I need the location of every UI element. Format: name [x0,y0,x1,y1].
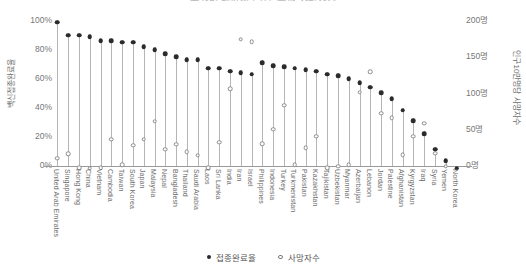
data-point-deaths[interactable] [217,140,222,145]
x-axis-label: Thailand [182,169,189,197]
data-point-vaccination[interactable] [260,60,265,65]
data-point-deaths[interactable] [260,141,265,146]
x-axis-label: Lebanon [366,169,373,197]
x-axis-label: Nepal [161,169,168,188]
stem-line [176,55,177,166]
y-axis-right-tick: 150명 [466,52,488,61]
x-axis-label: Japan [139,169,146,189]
data-point-vaccination[interactable] [55,20,60,25]
data-point-vaccination[interactable] [109,39,114,44]
data-point-vaccination[interactable] [357,81,362,86]
x-axis-label: Pakistan [301,169,308,197]
data-point-vaccination[interactable] [131,40,136,45]
legend-item-deaths[interactable]: 사망자수 [278,251,320,263]
data-point-vaccination[interactable] [98,39,103,44]
stem-line [122,40,123,166]
stem-line [424,131,425,166]
data-point-deaths[interactable] [379,111,384,116]
data-point-deaths[interactable] [390,115,395,120]
data-point-vaccination[interactable] [163,52,168,57]
stem-line [349,76,350,166]
data-point-vaccination[interactable] [411,118,416,123]
data-point-vaccination[interactable] [120,40,125,45]
x-axis-label: Tajikistan [323,169,330,199]
data-point-deaths[interactable] [174,142,179,147]
data-point-vaccination[interactable] [433,147,438,152]
data-point-vaccination[interactable] [239,70,244,75]
data-point-deaths[interactable] [249,39,254,44]
legend-label-deaths: 사망자수 [288,251,320,263]
data-point-vaccination[interactable] [336,73,341,78]
data-point-deaths[interactable] [346,162,351,167]
stem-line [273,63,274,166]
x-axis-label: Saudi Arabia [193,169,200,210]
data-point-deaths[interactable] [444,164,449,169]
data-point-vaccination[interactable] [282,65,287,70]
data-point-deaths[interactable] [368,70,373,75]
data-point-vaccination[interactable] [152,47,157,52]
data-point-deaths[interactable] [152,119,157,124]
data-point-deaths[interactable] [239,37,244,42]
x-axis-label: India [226,169,233,185]
data-point-vaccination[interactable] [422,131,427,136]
data-point-deaths[interactable] [400,152,405,157]
data-point-vaccination[interactable] [87,34,92,39]
data-point-vaccination[interactable] [271,63,276,68]
legend-item-vaccination[interactable]: 접종완료율 [207,251,257,263]
data-point-deaths[interactable] [163,147,168,152]
data-point-deaths[interactable] [109,137,114,142]
data-point-deaths[interactable] [141,137,146,142]
data-point-vaccination[interactable] [185,57,190,62]
data-point-vaccination[interactable] [292,66,297,71]
data-point-deaths[interactable] [422,121,427,126]
stem-line [413,118,414,166]
stem-line [219,66,220,166]
data-point-deaths[interactable] [357,90,362,95]
data-point-vaccination[interactable] [346,76,351,81]
stem-line [403,108,404,166]
data-point-deaths[interactable] [228,86,233,91]
data-point-deaths[interactable] [185,149,190,154]
x-axis-label: Yemen [441,169,448,191]
data-point-deaths[interactable] [120,162,125,167]
data-point-vaccination[interactable] [77,33,82,38]
data-point-vaccination[interactable] [390,97,395,102]
data-point-deaths[interactable] [131,143,136,148]
data-point-vaccination[interactable] [368,85,373,90]
vaccination-death-chart: 국가별 백신접종완료율과 사망자수 백신접종완료율 인구10만명당 사망자수 0… [0,0,526,277]
y-axis-left-tick: 40% [35,103,52,112]
x-axis-label: Hong Kong [75,169,82,205]
x-axis-label: Sri Lanka [215,169,222,199]
y-axis-left-tick: 80% [35,45,52,54]
x-axis-label: Afghanistan [398,169,405,207]
data-point-vaccination[interactable] [249,72,254,77]
data-point-deaths[interactable] [66,152,71,157]
stem-line [284,65,285,166]
data-point-deaths[interactable] [411,134,416,139]
data-point-vaccination[interactable] [325,72,330,77]
data-point-vaccination[interactable] [379,91,384,96]
data-point-vaccination[interactable] [174,55,179,60]
data-point-vaccination[interactable] [228,69,233,74]
data-point-deaths[interactable] [271,127,276,132]
data-point-vaccination[interactable] [217,66,222,71]
data-point-vaccination[interactable] [444,159,449,164]
x-axis-label: Vietnam [96,169,103,195]
stem-line [101,39,102,166]
data-point-vaccination[interactable] [141,44,146,49]
data-point-deaths[interactable] [336,164,341,169]
data-point-vaccination[interactable] [206,66,211,71]
data-point-vaccination[interactable] [195,57,200,62]
data-point-deaths[interactable] [303,146,308,151]
data-point-vaccination[interactable] [314,69,319,74]
y-axis-right-tick: 200명 [466,16,488,25]
data-point-deaths[interactable] [282,103,287,108]
data-point-deaths[interactable] [55,156,60,161]
x-axis-label: Turkey [280,169,287,191]
data-point-vaccination[interactable] [66,33,71,38]
data-point-deaths[interactable] [195,153,200,158]
data-point-deaths[interactable] [314,134,319,139]
data-point-vaccination[interactable] [400,108,405,113]
data-point-vaccination[interactable] [303,68,308,73]
data-point-deaths[interactable] [292,162,297,167]
